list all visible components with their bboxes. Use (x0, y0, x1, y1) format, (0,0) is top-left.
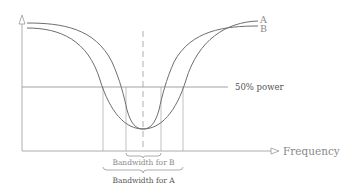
half-power-line: 50% power (22, 82, 284, 92)
curve-b-label: B (260, 23, 267, 34)
bandwidth-diagram: Frequency 50% power A B Bandwidth for B … (0, 0, 354, 193)
x-axis-label: Frequency (283, 145, 340, 157)
bandwidth-a-brace (103, 167, 183, 173)
half-power-label: 50% power (235, 82, 284, 92)
bandwidth-a-label: Bandwidth for A (112, 176, 175, 185)
curve-a (27, 21, 258, 129)
y-axis (19, 15, 25, 151)
x-axis-arrow-icon (271, 148, 279, 154)
x-axis: Frequency (22, 145, 340, 157)
curve-b (27, 23, 258, 129)
y-axis-arrow-icon (19, 15, 25, 24)
bandwidth-b-label: Bandwidth for B (112, 158, 175, 167)
